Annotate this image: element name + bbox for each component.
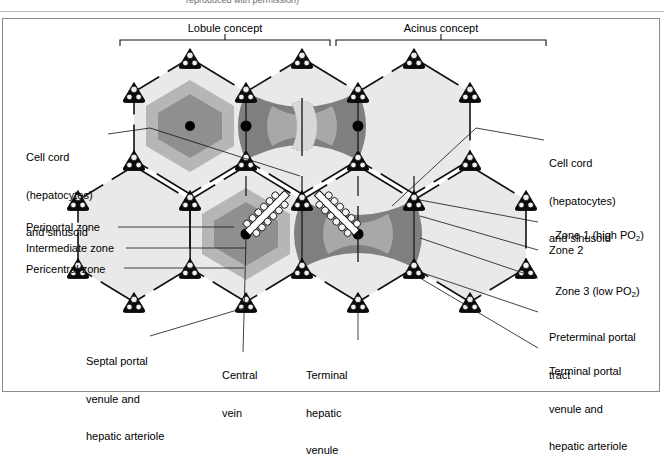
hexagon-lobule-6 xyxy=(78,166,190,302)
label-periportal-zone: Periportal zone xyxy=(26,221,100,234)
label-terminal-portal-venule: Terminal portal venule and hepatic arter… xyxy=(549,340,627,458)
acinus-upper xyxy=(238,92,366,160)
label-zone-3-sub: 2 xyxy=(632,290,636,299)
label-central-vein: Central vein xyxy=(222,344,257,432)
hexagon-lobule-7 xyxy=(414,166,526,302)
label-central-vein-line-2: vein xyxy=(222,407,257,420)
label-cell-cord-right-line-1: Cell cord xyxy=(549,157,616,170)
label-zone-3: Zone 3 (low PO2) xyxy=(549,272,640,299)
label-terminal-hepatic-line-1: Terminal xyxy=(306,369,348,382)
label-terminal-hepatic-line-2: hepatic xyxy=(306,407,348,420)
label-zone-1-sub: 2 xyxy=(636,234,640,243)
label-pericentral-zone: Pericentral zone xyxy=(26,263,106,276)
label-central-vein-line-1: Central xyxy=(222,369,257,382)
label-terminal-portal-line-3: hepatic arteriole xyxy=(549,440,627,453)
label-zone-3-post: ) xyxy=(636,285,640,297)
label-septal-line-1: Septal portal xyxy=(86,355,164,368)
concept-brackets xyxy=(120,34,546,46)
label-cell-cord-left-line-1: Cell cord xyxy=(26,151,93,164)
label-cell-cord-left-line-2: (hepatocytes) xyxy=(26,189,93,202)
label-septal-line-2: venule and xyxy=(86,393,164,406)
hexagon-lobule-3 xyxy=(358,58,470,194)
label-septal-portal-venule: Septal portal venule and hepatic arterio… xyxy=(86,330,164,455)
label-zone-1: Zone 1 (high PO2) xyxy=(549,216,644,243)
acinus-lower xyxy=(294,200,422,268)
label-terminal-portal-line-2: venule and xyxy=(549,403,627,416)
central-vein-dot-1 xyxy=(185,121,195,131)
label-zone-1-post: ) xyxy=(640,229,644,241)
label-intermediate-zone: Intermediate zone xyxy=(26,242,114,255)
label-zone-2: Zone 2 xyxy=(549,244,583,257)
header-lobule-concept: Lobule concept xyxy=(160,22,290,35)
label-terminal-hepatic-line-3: venule xyxy=(306,444,348,457)
label-septal-line-3: hepatic arteriole xyxy=(86,430,164,443)
label-zone-1-pre: Zone 1 (high PO xyxy=(555,229,636,241)
label-terminal-hepatic-venule: Terminal hepatic venule xyxy=(306,344,348,458)
label-cell-cord-right-line-2: (hepatocytes) xyxy=(549,195,616,208)
header-acinus-concept: Acinus concept xyxy=(376,22,506,35)
label-zone-3-pre: Zone 3 (low PO xyxy=(555,285,631,297)
label-terminal-portal-line-1: Terminal portal xyxy=(549,365,627,378)
